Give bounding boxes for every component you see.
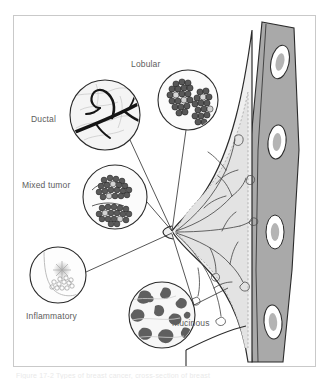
rib-center	[271, 223, 279, 241]
label-lobular: Lobular	[131, 59, 160, 69]
callout-ductal[interactable]	[70, 80, 142, 150]
figure-root: Ductal Lobular Mixed tumor Inflammatory …	[0, 0, 330, 383]
label-mixed-tumor: Mixed tumor	[22, 180, 70, 190]
connector-mixed	[147, 202, 172, 231]
callout-lobular[interactable]	[158, 70, 218, 130]
figure-caption: Figure 17-2 Types of breast cancer, cros…	[16, 372, 316, 379]
label-inflammatory: Inflammatory	[26, 311, 77, 321]
callout-mucinous[interactable]	[129, 282, 195, 350]
nipple	[163, 226, 173, 239]
connector-lobular	[172, 130, 186, 231]
callout-inflammatory[interactable]	[30, 247, 86, 303]
callout-mixed-tumor[interactable]	[83, 165, 147, 229]
label-ductal: Ductal	[31, 114, 56, 124]
label-mucinous: Mucinous	[172, 318, 210, 328]
connector-inflammatory	[86, 233, 172, 272]
breast-cancer-diagram	[0, 0, 330, 383]
inframammary-line	[186, 326, 246, 350]
